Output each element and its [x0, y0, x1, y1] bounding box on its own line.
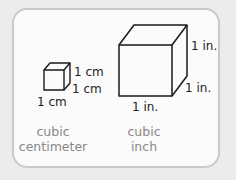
- caption-line-2: inch: [99, 139, 189, 154]
- caption-line-1: cubic: [8, 124, 98, 139]
- small-cube-icon: [44, 63, 70, 90]
- large-cube-width-label: 1 in.: [132, 101, 158, 113]
- small-cube-width-label: 1 cm: [37, 96, 67, 108]
- caption-line-2: centimeter: [8, 139, 98, 154]
- caption-cubic-inch: cubic inch: [99, 124, 189, 154]
- small-cube-depth-label: 1 cm: [72, 83, 102, 95]
- small-cube-height-label: 1 cm: [74, 66, 104, 78]
- large-cube-depth-label: 1 in.: [185, 82, 211, 94]
- large-cube-icon: [119, 25, 187, 96]
- large-cube-height-label: 1 in.: [191, 40, 217, 52]
- caption-line-1: cubic: [99, 124, 189, 139]
- caption-cubic-centimeter: cubic centimeter: [8, 124, 98, 154]
